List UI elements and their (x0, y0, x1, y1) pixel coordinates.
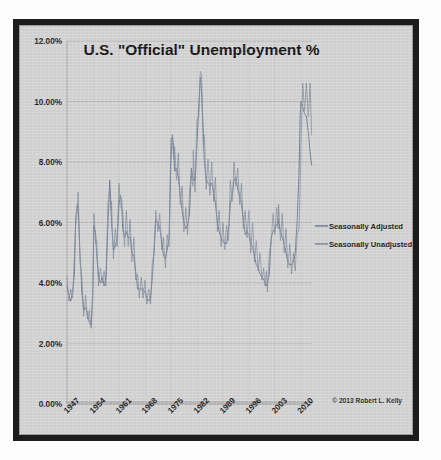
plot-area: 0.00%2.00%4.00%6.00%8.00%10.00%12.00%194… (20, 26, 412, 434)
legend-label: Seasonally Adjusted (329, 222, 403, 231)
y-axis-tick-label: 2.00% (39, 340, 63, 349)
chart-canvas: 0.00%2.00%4.00%6.00%8.00%10.00%12.00%194… (19, 25, 413, 435)
x-axis-tick-label: 1968 (140, 396, 160, 416)
x-axis-tick-label: 2003 (270, 396, 290, 416)
unemployment-line-chart: 0.00%2.00%4.00%6.00%8.00%10.00%12.00%194… (20, 26, 413, 435)
y-axis-tick-label: 8.00% (39, 158, 63, 167)
x-axis-tick-label: 1996 (244, 396, 264, 416)
copyright-credit: © 2013 Robert L. Kelly (332, 397, 402, 405)
x-axis-tick-label: 2010 (296, 396, 316, 416)
chart-title: U.S. "Official" Unemployment % (83, 41, 319, 58)
x-axis-tick-label: 1982 (192, 396, 212, 416)
y-axis-tick-label: 10.00% (34, 98, 62, 107)
y-axis-tick-label: 4.00% (39, 279, 63, 288)
y-axis-tick-label: 0.00% (39, 400, 63, 409)
y-axis-tick-label: 6.00% (39, 219, 63, 228)
legend-label: Seasonally Unadjusted (329, 240, 412, 249)
picture-frame: 0.00%2.00%4.00%6.00%8.00%10.00%12.00%194… (13, 19, 419, 441)
x-axis-tick-label: 1989 (218, 396, 238, 416)
x-axis-tick-label: 1954 (88, 396, 108, 416)
x-axis-tick-label: 1947 (62, 396, 82, 416)
y-axis-tick-label: 12.00% (34, 37, 62, 46)
chart-page: 0.00%2.00%4.00%6.00%8.00%10.00%12.00%194… (0, 0, 441, 460)
x-axis-tick-label: 1961 (114, 396, 134, 416)
x-axis-tick-label: 1975 (166, 396, 186, 416)
